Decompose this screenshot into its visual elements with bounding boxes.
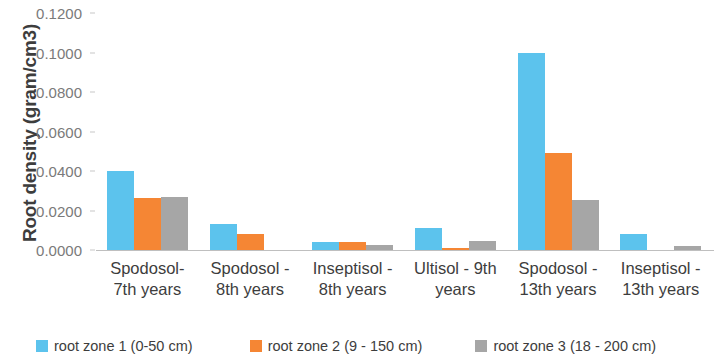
x-axis-category-label: Inseptisol -8th years	[301, 258, 404, 318]
x-axis-category-label: Inseptisol -13th years	[609, 258, 712, 318]
legend-swatch-icon	[36, 340, 48, 352]
bar	[518, 53, 545, 251]
bar	[210, 224, 237, 250]
y-axis-tick-mark	[90, 250, 95, 251]
x-axis-category-labels: Spodosol-7th yearsSpodosol -8th yearsIns…	[96, 258, 712, 318]
bar-group	[507, 13, 610, 250]
bar	[572, 200, 599, 250]
bar-group	[199, 13, 302, 250]
legend-item-label: root zone 1 (0-50 cm)	[54, 338, 193, 354]
bar-group	[301, 13, 404, 250]
bar-group	[96, 13, 199, 250]
y-axis-tick-label: 0.0200	[36, 202, 82, 219]
chart-legend: root zone 1 (0-50 cm)root zone 2 (9 - 15…	[0, 338, 718, 354]
y-axis-tick-mark	[90, 13, 95, 14]
y-axis-tick-mark	[90, 171, 95, 172]
bar	[339, 242, 366, 250]
bar	[107, 171, 134, 250]
bar	[366, 245, 393, 250]
bar	[674, 246, 701, 250]
bar	[545, 153, 572, 250]
bar-chart: Root density (gram/cm3) 0.12000.10000.08…	[0, 0, 718, 364]
x-axis-category-label: Spodosol-7th years	[96, 258, 199, 318]
bar	[442, 248, 469, 250]
bar	[161, 197, 188, 250]
bar	[312, 242, 339, 250]
y-axis-tick-mark	[90, 210, 95, 211]
legend-item[interactable]: root zone 3 (18 - 200 cm)	[475, 338, 656, 354]
legend-swatch-icon	[475, 340, 487, 352]
legend-item[interactable]: root zone 1 (0-50 cm)	[36, 338, 193, 354]
y-axis-tick-mark	[90, 52, 95, 53]
y-axis-tick-mark	[90, 92, 95, 93]
bar	[237, 234, 264, 250]
y-axis-tick-label: 0.0400	[36, 163, 82, 180]
y-axis-tick-label: 0.1000	[36, 44, 82, 61]
y-axis-tick-labels: 0.12000.10000.08000.06000.04000.02000.00…	[0, 0, 90, 264]
legend-swatch-icon	[250, 340, 262, 352]
bar	[415, 228, 442, 250]
x-axis-category-label: Spodosol -13th years	[507, 258, 610, 318]
legend-item[interactable]: root zone 2 (9 - 150 cm)	[250, 338, 423, 354]
y-axis-tick-label: 0.0000	[36, 242, 82, 259]
legend-item-label: root zone 2 (9 - 150 cm)	[268, 338, 423, 354]
bar	[620, 234, 647, 250]
x-axis-line	[96, 250, 714, 251]
y-axis-tick-mark	[90, 131, 95, 132]
legend-item-label: root zone 3 (18 - 200 cm)	[493, 338, 656, 354]
plot-area	[96, 13, 712, 250]
bar-group	[609, 13, 712, 250]
y-axis-tick-label: 0.0600	[36, 123, 82, 140]
x-axis-category-label: Ultisol - 9thyears	[404, 258, 507, 318]
y-axis-tick-label: 0.1200	[36, 5, 82, 22]
bar-group	[404, 13, 507, 250]
x-axis-category-label: Spodosol -8th years	[199, 258, 302, 318]
y-axis-tick-label: 0.0800	[36, 84, 82, 101]
bar	[469, 241, 496, 250]
bar	[134, 198, 161, 250]
